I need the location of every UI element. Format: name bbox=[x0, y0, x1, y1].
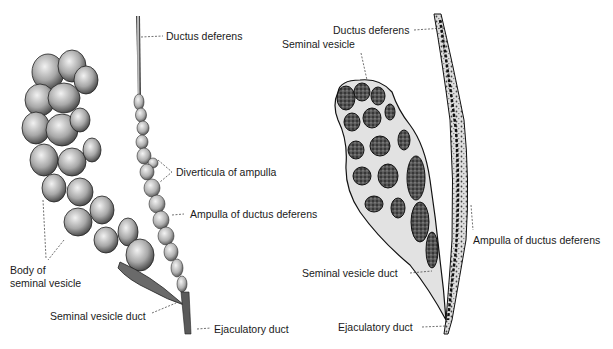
label-right-ductus-deferens: Ductus deferens bbox=[333, 24, 409, 36]
label-left-body-of-seminal-vesicle-line2: seminal vesicle bbox=[10, 277, 81, 289]
label-left-ductus-deferens: Ductus deferens bbox=[166, 30, 242, 42]
label-left-diverticula-of-ampulla: Diverticula of ampulla bbox=[176, 166, 276, 178]
label-left-seminal-vesicle-duct: Seminal vesicle duct bbox=[50, 310, 146, 322]
label-right-ejaculatory-duct: Ejaculatory duct bbox=[338, 321, 413, 333]
label-left-ampulla-of-ductus-deferens: Ampulla of ductus deferens bbox=[190, 208, 317, 220]
label-right-ampulla-of-ductus-deferens: Ampulla of ductus deferens bbox=[473, 234, 600, 246]
anatomy-figure: Ductus deferens Diverticula of ampulla A… bbox=[0, 0, 613, 349]
label-left-ejaculatory-duct: Ejaculatory duct bbox=[214, 323, 289, 335]
right-seminal-vesicle-section bbox=[335, 80, 446, 320]
right-illustration bbox=[0, 0, 613, 349]
label-right-seminal-vesicle: Seminal vesicle bbox=[282, 38, 355, 50]
label-left-body-of-seminal-vesicle-line1: Body of bbox=[10, 264, 46, 276]
label-right-seminal-vesicle-duct: Seminal vesicle duct bbox=[302, 267, 398, 279]
